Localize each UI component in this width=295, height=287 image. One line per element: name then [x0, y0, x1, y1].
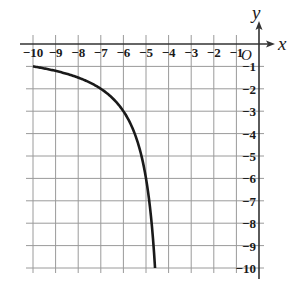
- x-tick-label: −10: [23, 45, 43, 60]
- x-axis-label: x: [277, 33, 287, 54]
- origin-label: O: [241, 47, 252, 63]
- x-tick-label: −3: [184, 45, 198, 60]
- x-tick-label: −2: [207, 45, 221, 60]
- y-tick-label: −2: [242, 82, 256, 97]
- y-tick-label: −5: [242, 149, 256, 164]
- grid-lines: [26, 35, 264, 273]
- y-tick-label: −4: [242, 127, 256, 142]
- y-tick-label: −6: [242, 171, 256, 186]
- x-tick-label: −4: [162, 45, 176, 60]
- x-tick-label: −7: [94, 45, 108, 60]
- x-tick-label: −6: [116, 45, 130, 60]
- y-tick-labels: −1−2−3−4−5−6−7−8−9−10: [236, 59, 257, 276]
- y-tick-label: −3: [242, 104, 256, 119]
- x-tick-label: −5: [139, 45, 153, 60]
- y-tick-label: −7: [242, 194, 256, 209]
- function-curve: [33, 66, 155, 268]
- y-tick-label: −10: [236, 261, 256, 276]
- x-tick-label: −9: [49, 45, 63, 60]
- function-graph: −10−9−8−7−6−5−4−3−2−1 −1−2−3−4−5−6−7−8−9…: [0, 0, 295, 287]
- y-axis-label: y: [250, 2, 261, 23]
- x-tick-labels: −10−9−8−7−6−5−4−3−2−1: [23, 45, 244, 60]
- y-tick-label: −9: [242, 239, 256, 254]
- x-tick-label: −8: [71, 45, 85, 60]
- y-tick-label: −8: [242, 216, 256, 231]
